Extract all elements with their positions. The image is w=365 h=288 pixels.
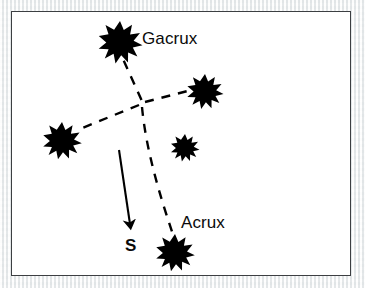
star-label-acrux: Acrux: [181, 214, 225, 231]
figure-frame: [11, 11, 351, 276]
star-label-gacrux: Gacrux: [142, 30, 197, 47]
figure-canvas: Gacrux Acrux S: [0, 0, 365, 288]
south-direction-label: S: [125, 237, 136, 254]
